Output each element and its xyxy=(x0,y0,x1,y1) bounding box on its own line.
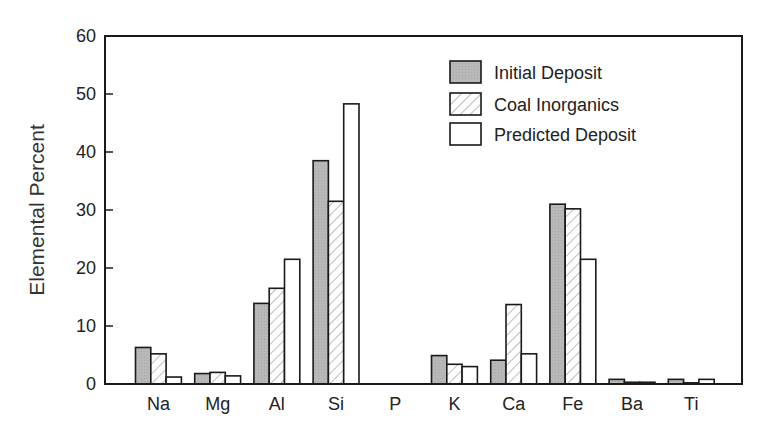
bar-predicted-deposit-ca xyxy=(521,354,536,384)
bar-predicted-deposit-si xyxy=(344,104,359,384)
bar-series xyxy=(136,104,715,384)
x-category-label: Ba xyxy=(621,394,644,414)
bar-initial-deposit-fe xyxy=(550,204,565,384)
svg-text:Elemental Percent: Elemental Percent xyxy=(25,124,48,296)
y-tick-label: 10 xyxy=(76,316,96,336)
legend: Initial DepositCoal InorganicsPredicted … xyxy=(450,61,636,145)
x-category-label: Na xyxy=(147,394,171,414)
bar-coal-inorganics-mg xyxy=(210,372,225,384)
bar-initial-deposit-ca xyxy=(491,360,506,384)
bar-coal-inorganics-si xyxy=(328,201,343,384)
bar-initial-deposit-mg xyxy=(195,374,210,384)
bar-initial-deposit-na xyxy=(136,347,151,384)
plot-frame xyxy=(105,36,742,384)
bar-initial-deposit-k xyxy=(432,356,447,384)
y-tick-label: 50 xyxy=(76,84,96,104)
bar-coal-inorganics-na xyxy=(151,354,166,384)
y-tick-label: 30 xyxy=(76,200,96,220)
y-tick-label: 20 xyxy=(76,258,96,278)
y-axis-title: Elemental Percent xyxy=(25,124,48,296)
bar-initial-deposit-si xyxy=(313,161,328,384)
bar-predicted-deposit-mg xyxy=(225,376,240,384)
y-axis-ticks: 0102030405060 xyxy=(76,26,113,394)
legend-label: Coal Inorganics xyxy=(494,95,619,115)
x-category-label: Al xyxy=(269,394,285,414)
y-tick-label: 40 xyxy=(76,142,96,162)
legend-swatch xyxy=(450,61,481,83)
bar-predicted-deposit-al xyxy=(285,259,300,384)
bar-coal-inorganics-k xyxy=(447,364,462,384)
legend-swatch xyxy=(450,93,481,115)
bar-coal-inorganics-fe xyxy=(565,209,580,384)
x-category-label: Si xyxy=(328,394,344,414)
x-category-label: P xyxy=(389,394,401,414)
legend-label: Initial Deposit xyxy=(494,63,602,83)
x-axis-labels: NaMgAlSiPKCaFeBaTi xyxy=(147,394,698,414)
bar-coal-inorganics-ca xyxy=(506,305,521,384)
bar-coal-inorganics-al xyxy=(269,288,284,384)
bar-predicted-deposit-fe xyxy=(581,259,596,384)
x-category-label: K xyxy=(448,394,460,414)
x-category-label: Ti xyxy=(684,394,698,414)
bar-chart: Elemental Percent 0102030405060 NaMgAlSi… xyxy=(0,0,763,429)
bar-initial-deposit-al xyxy=(254,303,269,384)
legend-swatch xyxy=(450,123,481,145)
legend-label: Predicted Deposit xyxy=(494,125,636,145)
x-category-label: Mg xyxy=(205,394,230,414)
x-category-label: Fe xyxy=(562,394,583,414)
bar-predicted-deposit-k xyxy=(462,367,477,384)
y-tick-label: 0 xyxy=(86,374,96,394)
y-tick-label: 60 xyxy=(76,26,96,46)
x-category-label: Ca xyxy=(502,394,526,414)
bar-predicted-deposit-na xyxy=(166,377,181,384)
